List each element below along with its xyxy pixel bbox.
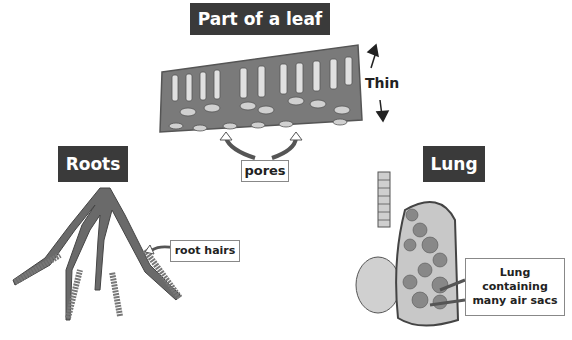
lung-label-line1: Lung [500, 266, 531, 280]
lung-label-line3: many air sacs [472, 294, 557, 308]
leaf-cross-section [160, 45, 362, 158]
label-thin: Thin [365, 75, 399, 91]
label-pores: pores [241, 160, 289, 182]
label-root-hairs: root hairs [170, 240, 240, 262]
title-roots: Roots [58, 146, 128, 182]
lung-illustration [356, 172, 465, 326]
title-leaf: Part of a leaf [190, 3, 330, 35]
lung-label-line2: containing [482, 280, 548, 294]
diagram-canvas: Part of a leaf Roots Lung pores root hai… [0, 0, 572, 340]
label-lung-air-sacs: Lung containing many air sacs [465, 258, 565, 316]
title-lung: Lung [423, 146, 485, 182]
roots-illustration [13, 188, 180, 320]
